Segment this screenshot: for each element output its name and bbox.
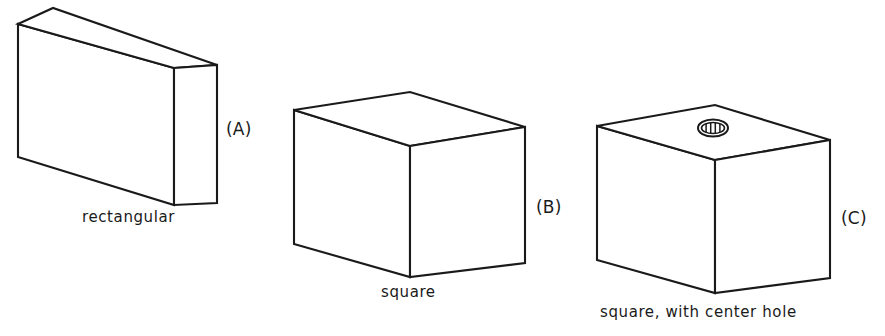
key-label-a: (A) xyxy=(226,119,252,139)
shape-c-right-face xyxy=(715,140,830,293)
shape-b-square-block xyxy=(294,92,525,277)
shape-b-right-face xyxy=(410,127,525,277)
key-label-c: (C) xyxy=(841,208,867,228)
caption-shape-a: rectangular xyxy=(82,208,175,226)
shape-a-right-face xyxy=(174,65,217,205)
shapes-diagram-svg xyxy=(0,0,885,336)
shape-c-square-block-with-hole xyxy=(597,105,830,293)
hole-inner-bore xyxy=(702,123,725,134)
key-label-b: (B) xyxy=(536,197,562,217)
caption-shape-b: square xyxy=(381,283,436,301)
center-hole-icon xyxy=(698,120,728,137)
figure-canvas: rectangular square square, with center h… xyxy=(0,0,885,336)
caption-shape-c: square, with center hole xyxy=(600,303,797,321)
shape-a-rectangular-block xyxy=(18,8,217,205)
